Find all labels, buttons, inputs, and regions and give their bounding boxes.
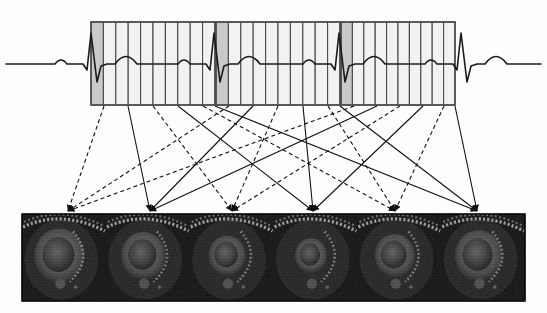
- bin-cell: [241, 22, 253, 105]
- mri-noise-overlay-fine: [22, 214, 525, 301]
- bin-cell: [116, 22, 128, 105]
- cine-strip-layer: [22, 214, 525, 301]
- bin-cell: [303, 22, 315, 105]
- figure-canvas: [0, 0, 547, 313]
- cine-frames: [22, 214, 525, 301]
- bin-cell: [178, 22, 190, 105]
- diagram-svg: [0, 0, 547, 313]
- bin-cell: [364, 22, 375, 105]
- bin-cell: [91, 22, 103, 105]
